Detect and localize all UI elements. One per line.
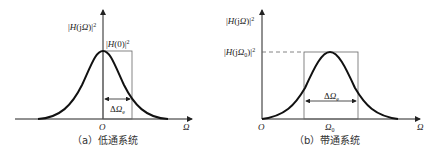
a-x-axis-label: Ω: [183, 123, 190, 132]
a-peak-label: |H(0)|2: [106, 39, 130, 49]
diagram-canvas: [0, 0, 428, 157]
b-center-label: Ω0: [325, 123, 335, 133]
a-origin-label: O: [99, 123, 106, 132]
panel-b-bandpass: [262, 10, 420, 119]
a-caption: （a）低通系统: [72, 136, 138, 146]
b-x-axis-label: Ω: [417, 123, 424, 132]
b-bandwidth-label: ΔΩe: [324, 92, 339, 102]
equivalent-rectangle: [304, 52, 358, 119]
b-y-axis-label: |H(jΩ)|2: [226, 16, 254, 26]
bandpass-curve: [262, 52, 398, 119]
a-bandwidth-label: ΔΩe: [110, 105, 125, 115]
a-y-axis-label: |H(jΩ)|2: [68, 22, 96, 32]
panel-a-lowpass: [15, 10, 192, 119]
b-origin-label: O: [258, 123, 265, 132]
b-caption: （b）带通系统: [294, 136, 360, 146]
b-peak-label: |H(jΩ0)|2: [224, 47, 255, 58]
